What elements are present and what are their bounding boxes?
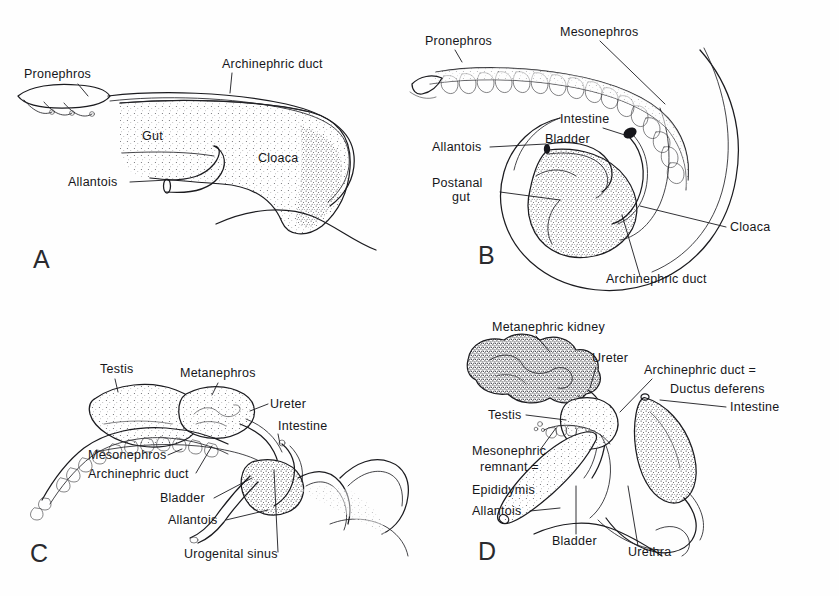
label-a-pronephros: Pronephros	[24, 67, 91, 81]
pronephros-body	[18, 84, 110, 108]
bladder-allantois-c	[190, 476, 250, 538]
leader-line-c-archinephric-duct	[196, 446, 212, 473]
label-a-archinephric-duct: Archinephric duct	[222, 57, 323, 71]
label-d-ductus-deferens: Ductus deferens	[670, 382, 765, 396]
leader-line-d-intestine	[660, 400, 726, 407]
cloaca-mass-b	[528, 149, 637, 257]
label-c-ureter: Ureter	[270, 397, 306, 411]
pronephros-tubule-3	[64, 103, 92, 116]
label-c-allantois: Allantois	[168, 513, 218, 527]
label-a-gut: Gut	[142, 129, 163, 143]
label-c-archinephric-duct: Archinephric duct	[88, 467, 189, 481]
label-d-testis: Testis	[488, 408, 521, 422]
leader-line-b-pronephros	[455, 50, 462, 62]
intestine-d	[634, 398, 696, 503]
panel-b-illustration	[410, 48, 738, 290]
label-c-urogenital-sinus: Urogenital sinus	[184, 547, 278, 561]
leader-line-a-archinephric-duct	[230, 73, 232, 93]
label-d-intestine: Intestine	[730, 400, 780, 414]
figure-canvas: PronephrosArchinephric ductGutCloacaAlla…	[0, 0, 839, 596]
allantois-tip-c	[190, 537, 198, 543]
label-b-bladder: Bladder	[545, 132, 590, 146]
tail-curve-b	[652, 48, 728, 272]
panel-letter-c: C	[30, 539, 49, 567]
label-a-allantois: Allantois	[68, 175, 118, 189]
label-b-gut: gut	[452, 190, 470, 204]
label-d-mesonephric: Mesonephric	[472, 444, 546, 458]
label-b-cloaca: Cloaca	[730, 220, 770, 234]
allantois-tip	[164, 179, 171, 193]
label-d-ureter: Ureter	[592, 351, 628, 365]
label-d-bladder: Bladder	[552, 534, 597, 548]
ureter-c-inner	[246, 419, 282, 452]
label-d-archinephric-duct: Archinephric duct =	[644, 363, 756, 377]
panel-letter-b: B	[478, 241, 495, 269]
label-b-intestine: Intestine	[560, 112, 610, 126]
metanephric-kidney-d	[467, 334, 600, 403]
panel-letter-d: D	[478, 537, 497, 565]
leader-line-a-allantois	[130, 180, 168, 182]
label-c-mesonephros: Mesonephros	[88, 448, 167, 462]
label-d-metanephric-kidney: Metanephric kidney	[492, 320, 605, 334]
figure-urogenital-development: PronephrosArchinephric ductGutCloacaAlla…	[0, 0, 839, 596]
label-b-pronephros: Pronephros	[425, 34, 492, 48]
label-a-cloaca: Cloaca	[258, 151, 298, 165]
label-b-allantois: Allantois	[432, 140, 482, 154]
label-b-postanal: Postanal	[432, 176, 483, 190]
label-d-urethra: Urethra	[628, 545, 671, 559]
label-c-metanephros: Metanephros	[180, 366, 256, 380]
label-d-remnant: remnant =	[480, 460, 539, 474]
label-d-allantois: Allantois	[472, 504, 522, 518]
metanephros-c	[179, 387, 255, 439]
panel-letter-a: A	[33, 245, 50, 273]
label-b-archinephric-duct: Archinephric duct	[606, 272, 707, 286]
label-c-bladder: Bladder	[160, 491, 205, 505]
pronephros-b-tubule	[410, 92, 436, 98]
label-c-intestine: Intestine	[278, 419, 328, 433]
label-b-mesonephros: Mesonephros	[560, 25, 639, 39]
tail-shading-c	[300, 486, 386, 536]
panel-a-illustration	[18, 84, 376, 250]
label-c-testis: Testis	[100, 362, 133, 376]
label-d-epididymis: Epididymis	[472, 483, 535, 497]
